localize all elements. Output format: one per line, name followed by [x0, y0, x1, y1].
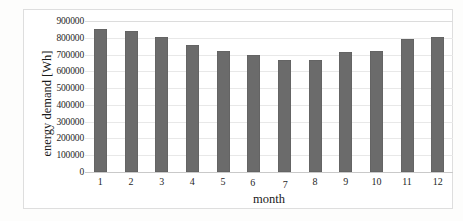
- bar-series: [85, 21, 453, 172]
- y-axis-tick-label: 500000: [38, 83, 84, 93]
- bar[interactable]: [217, 51, 230, 172]
- bar-slot: [392, 21, 423, 172]
- gridline: [85, 172, 453, 173]
- plot-area: [85, 21, 453, 172]
- x-axis-tick-label: 12: [422, 176, 453, 192]
- bar[interactable]: [339, 52, 352, 172]
- bar-slot: [146, 21, 177, 172]
- x-axis-tick-label: 3: [146, 176, 177, 192]
- x-axis-tick-label: 2: [116, 176, 147, 192]
- bar-slot: [300, 21, 331, 172]
- bar[interactable]: [431, 37, 444, 172]
- y-axis-tick-label: 300000: [38, 117, 84, 127]
- bar-slot: [116, 21, 147, 172]
- x-axis-tick-label: 4: [177, 176, 208, 192]
- x-axis-tick-labels: 123456789101112: [85, 176, 453, 192]
- chart-page: energy demand [Wh] 900000800000700000600…: [0, 0, 463, 221]
- y-axis-tick-label: 900000: [38, 16, 84, 26]
- bar[interactable]: [401, 39, 414, 172]
- bar[interactable]: [186, 45, 199, 173]
- bar[interactable]: [309, 60, 322, 172]
- y-axis-tick-label: 600000: [38, 66, 84, 76]
- bar-slot: [269, 21, 300, 172]
- y-axis-tick-label: 400000: [38, 100, 84, 110]
- bar-slot: [361, 21, 392, 172]
- y-axis-tick-label: 100000: [38, 150, 84, 160]
- bar-slot: [422, 21, 453, 172]
- x-axis-tick-label: 10: [361, 176, 392, 192]
- y-axis-tick-label: 0: [38, 167, 84, 177]
- bar-slot: [330, 21, 361, 172]
- y-axis-tick-label: 700000: [38, 50, 84, 60]
- x-axis-tick-label: 1: [85, 176, 116, 192]
- bar-slot: [238, 21, 269, 172]
- bar[interactable]: [155, 37, 168, 172]
- y-axis-tick-label: 200000: [38, 133, 84, 143]
- bar[interactable]: [278, 60, 291, 172]
- x-axis-tick-label: 11: [392, 176, 423, 192]
- bar[interactable]: [94, 29, 107, 172]
- y-axis-tick-label: 800000: [38, 33, 84, 43]
- bar[interactable]: [125, 31, 138, 172]
- bar-slot: [208, 21, 239, 172]
- x-axis-tick-label: 5: [208, 176, 239, 192]
- x-axis-tick-label: 8: [300, 176, 331, 192]
- bar[interactable]: [247, 55, 260, 172]
- bar-slot: [177, 21, 208, 172]
- bar-slot: [85, 21, 116, 172]
- x-axis-tick-label: 6: [237, 177, 268, 193]
- x-axis-tick-label: 9: [330, 176, 361, 192]
- x-axis-title: month: [85, 192, 453, 207]
- bar[interactable]: [370, 51, 383, 172]
